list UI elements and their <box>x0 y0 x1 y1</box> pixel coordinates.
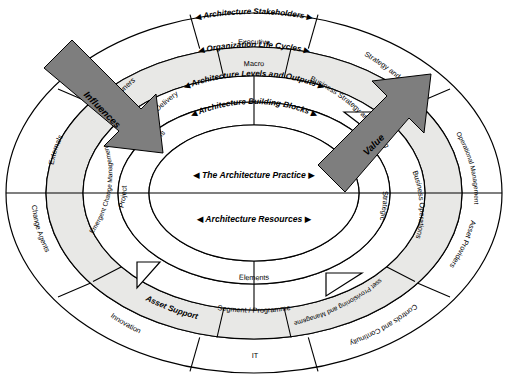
segment-label-executive: Executive <box>238 37 270 46</box>
diagram-canvas: ◀ Architecture Stakeholders ▶ ◀ Organiza… <box>0 0 509 387</box>
segment-label-elements: Elements <box>239 273 270 283</box>
core-label-practice: ◀ The Architecture Practice ▶ <box>193 170 315 180</box>
core-ellipse <box>149 125 359 261</box>
concentric-ring-diagram: ◀ Architecture Stakeholders ▶ ◀ Organiza… <box>0 0 509 387</box>
core-label-resources: ◀ Architecture Resources ▶ <box>197 214 312 224</box>
segment-label-it: IT <box>252 351 259 360</box>
